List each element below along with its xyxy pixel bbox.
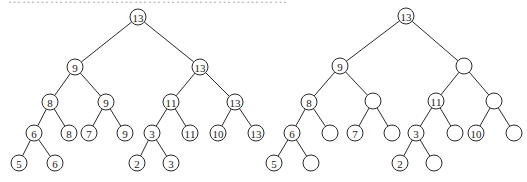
node-label: 2: [397, 158, 403, 170]
node-label: 8: [66, 128, 72, 140]
tree-node-empty: [426, 155, 442, 171]
node-label: 11: [185, 128, 196, 140]
tree-edge: [54, 109, 65, 126]
node-label: 6: [52, 158, 58, 170]
tree-edge: [144, 22, 194, 62]
node-label: 5: [16, 158, 22, 170]
tree-node: 3: [163, 155, 179, 171]
tree-node: 13: [248, 125, 264, 141]
node-label: 13: [230, 97, 242, 109]
node-label: 2: [134, 158, 140, 170]
tree-edge: [441, 72, 459, 95]
node-label: 13: [401, 11, 413, 23]
tree-edge: [404, 140, 412, 156]
tree-edge: [38, 109, 47, 126]
tree-node: 9: [332, 58, 348, 74]
tree-edge: [176, 73, 195, 96]
tree-edge: [480, 108, 490, 126]
tree-edge: [156, 109, 167, 126]
node-label: 10: [471, 128, 483, 140]
node-circle: [447, 125, 463, 141]
tree-edge: [377, 108, 388, 126]
tree-edge: [206, 73, 230, 97]
tree-node: 8: [301, 94, 317, 110]
tree-edge: [55, 74, 71, 96]
tree-node: 10: [210, 125, 226, 141]
node-label: 11: [166, 97, 177, 109]
tree-node: 6: [284, 125, 300, 141]
node-label: 5: [271, 158, 277, 170]
tree-node-empty: [486, 93, 502, 109]
tree-node: 9: [67, 59, 83, 75]
tree-edge: [412, 21, 458, 61]
node-label: 9: [122, 128, 128, 140]
tree-node: 13: [398, 8, 414, 24]
node-circle: [303, 155, 319, 171]
tree-edge: [175, 109, 186, 126]
tree-edge: [313, 109, 325, 127]
tree-edge: [440, 108, 451, 126]
tree-edge: [420, 108, 432, 126]
node-label: 6: [31, 128, 37, 140]
tree-node: 8: [42, 94, 58, 110]
tree-node: 13: [130, 9, 146, 25]
node-label: 9: [103, 97, 109, 109]
tree-node: 5: [266, 155, 282, 171]
tree-node: 9: [98, 94, 114, 110]
tree-node: 2: [129, 155, 145, 171]
tree-node: 13: [192, 59, 208, 75]
tree-edge: [110, 109, 121, 126]
node-circle: [506, 125, 522, 141]
tree-node: 8: [61, 125, 77, 141]
node-circle: [365, 93, 381, 109]
tree-edge: [222, 109, 231, 126]
node-label: 3: [168, 158, 174, 170]
node-label: 7: [86, 128, 92, 140]
tree-node: 7: [347, 125, 363, 141]
tree-node-empty: [456, 58, 472, 74]
tree-edge: [156, 140, 166, 156]
tree-node: 3: [144, 125, 160, 141]
node-label: 13: [133, 12, 145, 24]
node-label: 8: [47, 97, 53, 109]
node-label: 13: [195, 62, 207, 74]
tree-node: 11: [163, 94, 179, 110]
tree-node: 6: [47, 155, 63, 171]
tree-node: 5: [11, 155, 27, 171]
tree-edge: [141, 140, 149, 156]
tree-edge: [346, 21, 399, 61]
node-label: 6: [289, 128, 295, 140]
tree-edge: [359, 108, 369, 126]
tree-node: 11: [182, 125, 198, 141]
node-circle: [426, 155, 442, 171]
tree-node-empty: [384, 125, 400, 141]
tree-edge: [39, 140, 51, 157]
tree-node-empty: [365, 93, 381, 109]
tree-node: 7: [81, 125, 97, 141]
tree-edge: [239, 109, 251, 127]
tree-node: 11: [428, 93, 444, 109]
tree-edge: [80, 73, 100, 96]
tree-edge: [23, 140, 31, 156]
tree-node: 9: [117, 125, 133, 141]
node-label: 9: [72, 62, 78, 74]
node-circle: [322, 125, 338, 141]
tree-node: 3: [408, 125, 424, 141]
tree-edge: [314, 72, 335, 96]
left-tree-full: 13913891113687931110135623: [11, 9, 264, 171]
segment-tree-diagram: 13913891113687931110135623 1398116731052: [0, 0, 527, 182]
node-circle: [384, 125, 400, 141]
tree-node-empty: [322, 125, 338, 141]
tree-node: 2: [392, 155, 408, 171]
right-tree-partial: 1398116731052: [266, 8, 522, 171]
node-label: 3: [149, 128, 155, 140]
tree-edge: [93, 109, 102, 126]
node-label: 11: [431, 96, 442, 108]
tree-node: 6: [26, 125, 42, 141]
node-label: 13: [251, 128, 263, 140]
node-circle: [456, 58, 472, 74]
tree-node: 10: [468, 125, 484, 141]
tree-edge: [296, 140, 306, 156]
tree-node: 13: [227, 94, 243, 110]
tree-edge: [81, 22, 131, 62]
